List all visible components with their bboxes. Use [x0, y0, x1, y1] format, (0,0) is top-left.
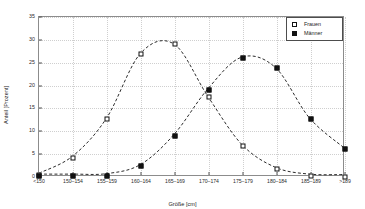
x-axis-tick-label: 185–189 — [301, 179, 321, 184]
legend: Frauen Männer — [286, 17, 343, 41]
data-point-marker — [207, 87, 212, 92]
data-point-marker — [207, 95, 212, 100]
y-axis-tick-label: 10 — [29, 129, 35, 134]
legend-item: Männer — [290, 29, 339, 38]
data-point-marker — [343, 146, 348, 151]
y-axis-tick-label: 25 — [29, 60, 35, 65]
legend-label: Frauen — [304, 22, 321, 27]
x-axis-tick-label: <150 — [33, 179, 44, 184]
gridline-vertical — [345, 17, 346, 175]
x-axis-title: Größe [cm] — [169, 201, 197, 207]
data-point-marker — [139, 164, 144, 169]
y-axis-tick-label: 5 — [32, 151, 35, 156]
data-point-marker — [343, 174, 348, 179]
filled-square-icon — [292, 31, 297, 36]
data-point-marker — [37, 174, 42, 179]
y-axis-tick-label: 35 — [29, 14, 35, 19]
series-line — [39, 41, 343, 175]
data-point-marker — [309, 174, 314, 179]
legend-item: Frauen — [290, 20, 339, 29]
data-point-marker — [241, 143, 246, 148]
x-axis-tick-label: 160–164 — [131, 179, 151, 184]
chart-container: Anteil [Prozent] 05101520253035 <150150–… — [0, 0, 365, 209]
y-axis-tick-label: 30 — [29, 37, 35, 42]
data-point-marker — [71, 174, 76, 179]
data-point-marker — [71, 155, 76, 160]
data-point-marker — [275, 167, 280, 172]
data-point-marker — [173, 42, 178, 47]
x-axis-tick-label: 180–184 — [267, 179, 287, 184]
x-axis-tick-label: 155–159 — [97, 179, 117, 184]
data-point-marker — [309, 116, 314, 121]
y-axis-tick-label: 20 — [29, 83, 35, 88]
open-square-icon — [292, 22, 297, 27]
data-point-marker — [275, 66, 280, 71]
data-point-marker — [173, 133, 178, 138]
data-point-marker — [241, 55, 246, 60]
x-axis-tick-label: 175–179 — [233, 179, 253, 184]
data-point-marker — [105, 173, 110, 178]
legend-label: Männer — [304, 31, 322, 36]
x-axis-tick-label: 170–174 — [199, 179, 219, 184]
y-axis-tick-label: 15 — [29, 106, 35, 111]
x-axis-tick-label: 150–154 — [63, 179, 83, 184]
x-axis-tick-label: 165–169 — [165, 179, 185, 184]
series-line — [39, 56, 343, 175]
x-axis-tick-label: >189 — [339, 179, 350, 184]
data-point-marker — [105, 117, 110, 122]
y-axis-title: Anteil [Prozent] — [3, 86, 9, 124]
data-point-marker — [139, 52, 144, 57]
